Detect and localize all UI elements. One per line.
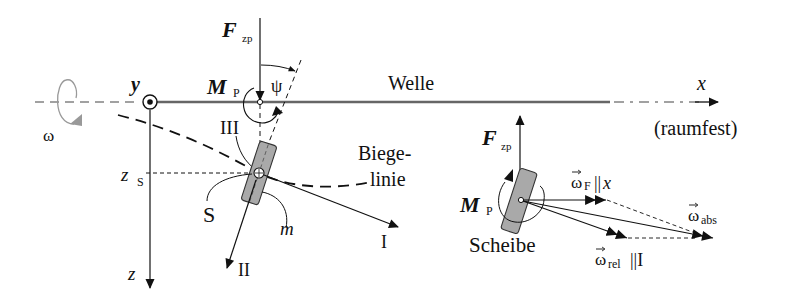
psi-label: ψ bbox=[271, 76, 283, 96]
omega-f-axis: x bbox=[602, 173, 611, 193]
shaft-label: Welle bbox=[388, 72, 434, 94]
force-subscript: zp bbox=[242, 32, 253, 44]
omega-rel-parallel: ||I bbox=[630, 250, 643, 270]
x-axis-label: x bbox=[696, 72, 706, 94]
axis-three-label: III bbox=[220, 117, 239, 138]
disk-label: Scheibe bbox=[469, 233, 535, 257]
z-s-subscript: S bbox=[137, 175, 144, 189]
right-force-label: F bbox=[481, 125, 497, 150]
fixed-frame-label: (raumfest) bbox=[654, 117, 737, 140]
bend-label-1: Biege- bbox=[358, 142, 411, 165]
center-label: S bbox=[203, 202, 215, 227]
axis-two-line bbox=[227, 180, 256, 268]
mass-label: m bbox=[280, 218, 294, 239]
omega-abs-subscript: abs bbox=[701, 213, 717, 227]
moment-subscript: P bbox=[233, 86, 240, 100]
omega-f-parallel: || bbox=[594, 173, 601, 193]
diagram-canvas: ω y z z S F zp M P ψ Welle x (raumfest) … bbox=[0, 0, 797, 298]
right-force-subscript: zp bbox=[501, 140, 512, 152]
y-axis-label: y bbox=[129, 73, 140, 96]
omega-rel-vector bbox=[523, 201, 627, 238]
omega-arrowhead bbox=[70, 114, 82, 126]
bending-line bbox=[118, 115, 372, 187]
y-axis-dot bbox=[147, 99, 153, 105]
moment-label: M bbox=[206, 74, 228, 99]
omega-rel-subscript: rel bbox=[608, 257, 621, 271]
axis-two-label: II bbox=[238, 260, 250, 280]
right-center bbox=[518, 197, 523, 202]
omega-abs-vector bbox=[523, 201, 713, 238]
omega-abs-label: ω bbox=[688, 206, 699, 225]
z-s-label: z bbox=[120, 164, 129, 185]
right-moment-arrowhead bbox=[504, 169, 513, 182]
right-moment-subscript: P bbox=[486, 204, 493, 218]
omega-f-subscript: F bbox=[584, 179, 591, 193]
shaft-point bbox=[257, 99, 262, 104]
axis-one-label: I bbox=[381, 232, 387, 252]
omega-rel-label: ω bbox=[595, 250, 606, 269]
omega-f-label: ω bbox=[571, 173, 582, 192]
diagram-svg: ω y z z S F zp M P ψ Welle x (raumfest) … bbox=[0, 0, 797, 298]
psi-arc bbox=[261, 65, 295, 71]
omega-label: ω bbox=[43, 126, 54, 145]
z-axis-label: z bbox=[127, 263, 136, 284]
force-label: F bbox=[221, 17, 237, 42]
bend-label-2: linie bbox=[370, 168, 406, 190]
right-moment-label: M bbox=[459, 192, 481, 217]
